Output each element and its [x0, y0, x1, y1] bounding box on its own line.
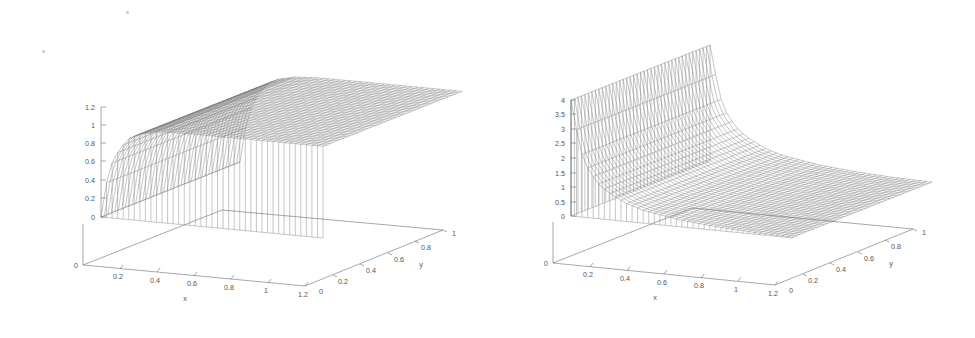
- left-ztick-1: 0.2: [85, 194, 95, 203]
- right-ztick-4: 2: [561, 154, 565, 163]
- left-origin-label: 0: [74, 261, 78, 270]
- right-ztick-3: 1.5: [555, 169, 565, 178]
- right-xtick-1: 0.2: [583, 270, 593, 279]
- right-y-axis-line: [775, 229, 913, 285]
- left-floor-back-right-edge: [222, 210, 443, 230]
- right-y-axis-label: y: [889, 259, 893, 268]
- left-ztick-6: 1.2: [85, 103, 95, 112]
- right-ztick-5: 2.5: [555, 139, 565, 148]
- figure-container: 1.2 1 0.8 0.6 0.4 0.2 0 0 0.2 0.: [0, 0, 975, 338]
- left-y-axis-line: [305, 230, 443, 286]
- right-ytick-2: 0.4: [836, 265, 846, 274]
- right-ztick-2: 1: [561, 183, 565, 192]
- left-x-tick-labels: 0.2 0.4 0.6 0.8 1 1.2: [113, 272, 308, 299]
- right-xtick-4: 0.8: [694, 281, 704, 290]
- right-plot-svg: 4 3.5 3 2.5 2 1.5 1 0.5 0 0 0.2: [488, 0, 975, 338]
- right-z-ticks: [571, 100, 576, 216]
- right-ytick-1: 0.2: [808, 276, 818, 285]
- right-z-tick-labels: 4 3.5 3 2.5 2 1.5 1 0.5 0: [555, 96, 565, 221]
- left-ztick-5: 1: [91, 121, 95, 130]
- left-xtick-4: 0.8: [224, 283, 234, 292]
- left-plot-svg: 1.2 1 0.8 0.6 0.4 0.2 0 0 0.2 0.: [0, 0, 487, 338]
- right-ztick-8: 4: [561, 96, 565, 105]
- left-ytick-4: 0.8: [421, 243, 431, 252]
- left-ytick-5: 1: [452, 229, 456, 238]
- right-ytick-4: 0.8: [891, 242, 901, 251]
- left-y-axis-label: y: [419, 260, 423, 269]
- left-surface-plot-panel: 1.2 1 0.8 0.6 0.4 0.2 0 0 0.2 0.: [0, 0, 487, 338]
- right-ztick-1: 0.5: [555, 198, 565, 207]
- right-x-tick-labels: 0.2 0.4 0.6 0.8 1 1.2: [583, 270, 778, 298]
- right-xtick-5: 1: [734, 285, 738, 294]
- right-x-ticks: [590, 263, 778, 285]
- right-ztick-7: 3.5: [555, 110, 565, 119]
- right-ztick-6: 3: [561, 125, 565, 134]
- left-surface-mesh: [101, 77, 462, 238]
- right-x-axis-label: x: [653, 293, 657, 302]
- left-xtick-5: 1: [264, 286, 268, 295]
- right-surface-mesh: [571, 45, 932, 238]
- left-x-ticks: [120, 265, 308, 286]
- right-ytick-3: 0.6: [864, 254, 874, 263]
- left-ytick-0: 0: [319, 287, 323, 296]
- left-floor-back-left-edge: [83, 210, 222, 265]
- left-ytick-3: 0.6: [394, 255, 404, 264]
- left-x-axis-label: x: [183, 294, 187, 303]
- left-ytick-1: 0.2: [338, 277, 348, 286]
- right-y-ticks: [803, 229, 917, 276]
- right-xtick-3: 0.6: [657, 278, 667, 287]
- left-xtick-3: 0.6: [187, 279, 197, 288]
- right-xtick-6: 1.2: [768, 289, 778, 298]
- right-origin-label: 0: [544, 259, 548, 268]
- left-xtick-6: 1.2: [298, 290, 308, 299]
- right-ytick-0: 0: [789, 286, 793, 295]
- right-xtick-2: 0.4: [620, 274, 630, 283]
- left-xtick-2: 0.4: [150, 276, 160, 285]
- left-xtick-1: 0.2: [113, 272, 123, 281]
- left-ztick-4: 0.8: [85, 139, 95, 148]
- left-ytick-2: 0.4: [366, 266, 376, 275]
- left-y-ticks: [333, 230, 447, 277]
- right-ztick-0: 0: [561, 212, 565, 221]
- right-y-tick-labels: 0 0.2 0.4 0.6 0.8 1: [789, 228, 926, 295]
- left-ztick-0: 0: [91, 213, 95, 222]
- right-surface-plot-panel: 4 3.5 3 2.5 2 1.5 1 0.5 0 0 0.2: [488, 0, 975, 338]
- right-ytick-5: 1: [922, 228, 926, 237]
- left-ztick-3: 0.6: [85, 157, 95, 166]
- left-ztick-2: 0.4: [85, 176, 95, 185]
- left-y-tick-labels: 0 0.2 0.4 0.6 0.8 1: [319, 229, 456, 296]
- left-z-tick-labels: 1.2 1 0.8 0.6 0.4 0.2 0: [85, 103, 95, 222]
